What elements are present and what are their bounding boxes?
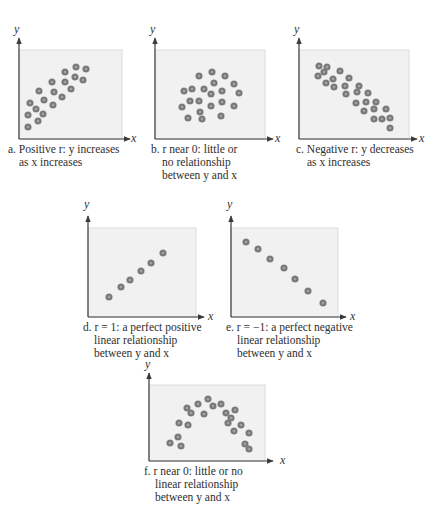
data-point bbox=[178, 103, 185, 110]
caption-line: as x increases bbox=[296, 156, 414, 169]
data-point bbox=[353, 88, 360, 95]
data-point bbox=[235, 89, 242, 96]
data-point bbox=[382, 105, 389, 112]
panel-d-y-label: y bbox=[84, 197, 89, 212]
panel-d-x-label: x bbox=[208, 309, 213, 324]
data-point bbox=[329, 75, 336, 82]
panel-f-x-label: x bbox=[280, 453, 285, 468]
data-point bbox=[364, 89, 371, 96]
data-point bbox=[195, 72, 202, 79]
data-point bbox=[40, 96, 47, 103]
data-point bbox=[208, 68, 215, 75]
data-point bbox=[352, 99, 359, 106]
data-point bbox=[217, 400, 224, 407]
data-point bbox=[230, 427, 237, 434]
panel-b-x-label: x bbox=[275, 131, 280, 146]
caption-line: as x increases bbox=[8, 156, 119, 169]
panel-b-caption: b. r near 0: little or no relationship b… bbox=[151, 143, 237, 182]
data-point bbox=[370, 115, 377, 122]
data-point bbox=[177, 442, 184, 449]
data-point bbox=[186, 97, 193, 104]
data-point bbox=[386, 114, 393, 121]
caption-line: linear relationship bbox=[83, 334, 202, 347]
data-point bbox=[280, 264, 287, 271]
data-point bbox=[198, 115, 205, 122]
data-point bbox=[200, 85, 207, 92]
caption-line: no relationship bbox=[151, 156, 237, 169]
panel-d-caption: d. r = 1: a perfect positive linear rela… bbox=[83, 321, 202, 360]
caption-line: linear relationship bbox=[144, 478, 243, 491]
data-point bbox=[231, 406, 238, 413]
data-point bbox=[360, 107, 367, 114]
data-point bbox=[195, 97, 202, 104]
data-point bbox=[187, 409, 194, 416]
data-point bbox=[194, 400, 201, 407]
caption-line: e. r = −1: a perfect negative bbox=[226, 321, 353, 333]
data-point bbox=[342, 90, 349, 97]
data-point bbox=[304, 287, 311, 294]
data-point bbox=[166, 439, 173, 446]
data-point bbox=[362, 98, 369, 105]
data-point bbox=[386, 124, 393, 131]
panel-f-caption: f. r near 0: little or no linear relatio… bbox=[144, 465, 243, 504]
data-point bbox=[221, 72, 228, 79]
caption-line: a. Positive r: y increases bbox=[8, 143, 119, 155]
caption-line: between y and x bbox=[144, 491, 243, 504]
data-point bbox=[48, 78, 55, 85]
data-point bbox=[67, 85, 74, 92]
caption-line: f. r near 0: little or no bbox=[144, 465, 243, 477]
data-point bbox=[174, 433, 181, 440]
panel-a-x-label: x bbox=[131, 131, 136, 146]
data-point bbox=[184, 114, 191, 121]
data-point bbox=[32, 105, 39, 112]
caption-line: d. r = 1: a perfect positive bbox=[83, 321, 202, 333]
correlation-figure: y y y y y y x x x x x x a. Positive r: y… bbox=[0, 0, 442, 510]
caption-line: c. Negative r: y decreases bbox=[296, 143, 414, 155]
plot-area bbox=[19, 50, 122, 139]
data-point bbox=[218, 87, 225, 94]
panel-a-y-label: y bbox=[14, 22, 19, 37]
data-point bbox=[49, 101, 56, 108]
data-point bbox=[245, 429, 252, 436]
data-point bbox=[196, 108, 203, 115]
data-point bbox=[58, 93, 65, 100]
data-point bbox=[245, 445, 252, 452]
data-point bbox=[314, 72, 321, 79]
data-point bbox=[184, 421, 191, 428]
panel-b-y-label: y bbox=[150, 22, 155, 37]
data-point bbox=[147, 259, 154, 266]
data-point bbox=[175, 419, 182, 426]
data-point bbox=[117, 283, 124, 290]
panel-c-y-label: y bbox=[294, 22, 299, 37]
data-point bbox=[372, 98, 379, 105]
caption-line: b. r near 0: little or bbox=[151, 143, 237, 155]
data-point bbox=[218, 98, 225, 105]
data-point bbox=[82, 65, 89, 72]
panel-c-caption: c. Negative r: y decreases as x increase… bbox=[296, 143, 414, 169]
scatter-panel-b bbox=[155, 38, 273, 139]
data-point bbox=[79, 76, 86, 83]
data-point bbox=[341, 82, 348, 89]
data-point bbox=[105, 293, 112, 300]
data-point bbox=[336, 67, 343, 74]
data-point bbox=[230, 80, 237, 87]
data-point bbox=[210, 79, 217, 86]
data-point bbox=[320, 68, 327, 75]
data-point bbox=[159, 249, 166, 256]
data-point bbox=[188, 85, 195, 92]
data-point bbox=[224, 419, 231, 426]
data-point bbox=[39, 110, 46, 117]
data-point bbox=[126, 276, 133, 283]
data-point bbox=[34, 117, 41, 124]
data-point bbox=[24, 123, 31, 130]
scatter-panel-c bbox=[299, 38, 417, 139]
data-point bbox=[217, 112, 224, 119]
caption-line: linear relationship bbox=[226, 334, 353, 347]
data-point bbox=[237, 421, 244, 428]
data-point bbox=[254, 245, 261, 252]
data-point bbox=[315, 62, 322, 69]
scatter-panel-a bbox=[19, 38, 130, 139]
data-point bbox=[378, 115, 385, 122]
data-point bbox=[35, 87, 42, 94]
data-point bbox=[26, 99, 33, 106]
